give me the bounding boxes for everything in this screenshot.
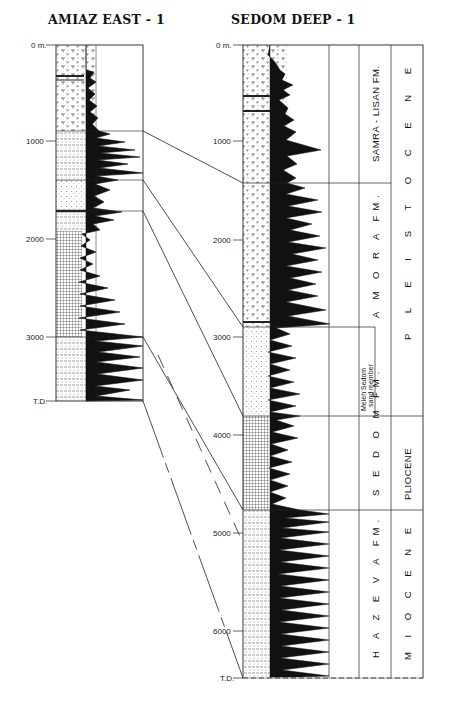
sedom-deep-log: 0 m. 1000 2000 3000 4000 5000 6000 T.D. … bbox=[213, 41, 423, 683]
formation-amora: A M O R A FM. bbox=[370, 190, 381, 318]
depth-label: 4000 bbox=[213, 431, 231, 440]
log-curve bbox=[79, 45, 143, 401]
epoch-labels: P L E I S T O C E N E PLIOCENE M I O C E… bbox=[402, 59, 413, 660]
lithology-sand bbox=[243, 327, 269, 416]
depth-label: 2000 bbox=[213, 236, 231, 245]
depth-axis-amiaz: 0 m. 1000 2000 3000 T.D. bbox=[26, 41, 56, 406]
depth-axis-sedom: 0 m. 1000 2000 3000 4000 5000 6000 T.D. bbox=[213, 41, 243, 683]
depth-label: T.D. bbox=[220, 674, 234, 683]
depth-label: 1000 bbox=[213, 137, 231, 146]
correlation-line-dashed bbox=[143, 401, 243, 678]
depth-label: T.D. bbox=[33, 397, 47, 406]
depth-label: 0 m. bbox=[216, 41, 232, 50]
correlation-line-dashed bbox=[158, 355, 243, 543]
depth-label: 1000 bbox=[26, 137, 44, 146]
depth-label: 6000 bbox=[213, 627, 231, 636]
correlation-lines bbox=[143, 131, 243, 678]
correlation-diagram: 0 m. 1000 2000 3000 T.D. bbox=[0, 0, 449, 705]
epoch-pleistocene: P L E I S T O C E N E bbox=[402, 59, 413, 340]
formation-hazeva: H A Z E V A FM. bbox=[370, 515, 381, 658]
formation-samra-lisan: SAMRA - LISAN FM. bbox=[370, 65, 381, 162]
formation-labels: SAMRA - LISAN FM. A M O R A FM. S E D O … bbox=[360, 65, 381, 658]
depth-label: 2000 bbox=[26, 235, 44, 244]
correlation-line bbox=[143, 337, 243, 510]
depth-label: 0 m. bbox=[31, 41, 47, 50]
depth-label: 5000 bbox=[213, 529, 231, 538]
member-meleh-sedom-line1: Meleh Sedom bbox=[360, 368, 367, 411]
amiaz-east-log: 0 m. 1000 2000 3000 T.D. bbox=[26, 41, 143, 406]
correlation-line bbox=[143, 180, 243, 327]
log-curve bbox=[268, 45, 330, 678]
depth-label: 3000 bbox=[26, 333, 44, 342]
depth-label: 3000 bbox=[213, 333, 231, 342]
lithology-salt bbox=[56, 231, 82, 337]
member-meleh-sedom-line2: sand member bbox=[367, 364, 374, 407]
epoch-pliocene: PLIOCENE bbox=[402, 448, 413, 500]
epoch-miocene: M I O C E N E bbox=[402, 522, 413, 660]
lithology-salt bbox=[243, 416, 269, 510]
